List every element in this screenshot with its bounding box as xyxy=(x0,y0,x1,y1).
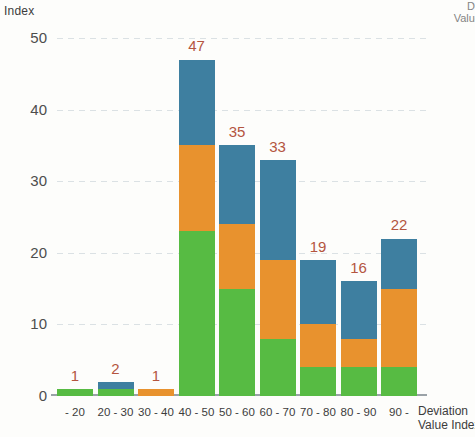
bar-total-label: 47 xyxy=(188,37,205,54)
bar-segment-orange[interactable] xyxy=(179,145,215,231)
y-axis-tick-label: 10 xyxy=(30,316,47,333)
y-axis-tick-label: 20 xyxy=(30,244,47,261)
x-axis-tick-label: 80 - 90 xyxy=(341,406,377,418)
bar-total-label: 19 xyxy=(310,238,327,255)
x-axis-tick-label: 40 - 50 xyxy=(179,406,215,418)
chart-page: Index De Value Deviation Value Index 504… xyxy=(0,0,475,437)
bar-segment-blue[interactable] xyxy=(300,260,336,324)
plot-area: 50403020100 1- 20220 - 30130 - 404740 - … xyxy=(57,38,417,396)
top-right-label-line2: Value xyxy=(454,12,475,24)
x-axis-tick-label: - 20 xyxy=(65,406,85,418)
bar-total-label: 1 xyxy=(71,367,79,384)
bar-group[interactable]: 130 - 40 xyxy=(138,38,174,396)
bar-segment-orange[interactable] xyxy=(341,339,377,368)
x-axis-tick-label: 20 - 30 xyxy=(98,406,134,418)
bar-total-label: 1 xyxy=(152,367,160,384)
bar-segment-orange[interactable] xyxy=(260,260,296,339)
gridline: 0 xyxy=(57,396,429,397)
bar-group[interactable]: 3360 - 70 xyxy=(260,38,296,396)
bar-segment-green[interactable] xyxy=(179,231,215,396)
y-axis-tick-label: 30 xyxy=(30,172,47,189)
bar-group[interactable]: 2290 - xyxy=(381,38,417,396)
bar-segment-blue[interactable] xyxy=(98,382,134,389)
x-axis-title: Deviation Value Index xyxy=(418,404,475,432)
top-right-cropped-label: De Value xyxy=(454,0,475,24)
x-axis-tick-label: 60 - 70 xyxy=(260,406,296,418)
bar-group[interactable]: 4740 - 50 xyxy=(179,38,215,396)
x-axis-title-line1: Deviation xyxy=(418,404,475,418)
bar-segment-green[interactable] xyxy=(57,389,93,396)
bar-group[interactable]: 3550 - 60 xyxy=(219,38,255,396)
top-right-label-line1: De xyxy=(454,0,475,12)
bar-total-label: 33 xyxy=(269,138,286,155)
x-axis-tick-label: 70 - 80 xyxy=(300,406,336,418)
bar-segment-green[interactable] xyxy=(260,339,296,396)
bar-segment-blue[interactable] xyxy=(260,160,296,260)
bar-total-label: 35 xyxy=(229,123,246,140)
bar-group[interactable]: 220 - 30 xyxy=(98,38,134,396)
bar-segment-green[interactable] xyxy=(341,367,377,396)
x-axis-tick-label: 30 - 40 xyxy=(138,406,174,418)
bar-group[interactable]: 1- 20 xyxy=(57,38,93,396)
bar-segment-blue[interactable] xyxy=(381,239,417,289)
bar-segment-orange[interactable] xyxy=(138,389,174,396)
y-axis-tick-label: 40 xyxy=(30,101,47,118)
bar-segment-orange[interactable] xyxy=(300,324,336,367)
x-axis-tick-label: 50 - 60 xyxy=(219,406,255,418)
bar-segment-blue[interactable] xyxy=(219,145,255,224)
bar-segment-green[interactable] xyxy=(381,367,417,396)
x-axis-tick-label: 90 - xyxy=(389,406,409,418)
bar-segment-orange[interactable] xyxy=(219,224,255,288)
y-axis-title: Index xyxy=(4,4,34,18)
bar-total-label: 16 xyxy=(350,259,367,276)
bar-group[interactable]: 1680 - 90 xyxy=(341,38,377,396)
bar-total-label: 2 xyxy=(111,360,119,377)
bar-segment-blue[interactable] xyxy=(341,281,377,338)
bar-segment-blue[interactable] xyxy=(179,60,215,146)
y-axis-tick-label: 50 xyxy=(30,29,47,46)
y-axis-tick-label: 0 xyxy=(39,387,47,404)
bar-series: 1- 20220 - 30130 - 404740 - 503550 - 603… xyxy=(57,38,417,396)
bar-segment-orange[interactable] xyxy=(381,289,417,368)
bar-group[interactable]: 1970 - 80 xyxy=(300,38,336,396)
bar-segment-green[interactable] xyxy=(300,367,336,396)
bar-total-label: 22 xyxy=(391,216,408,233)
bar-segment-green[interactable] xyxy=(98,389,134,396)
bar-segment-green[interactable] xyxy=(219,289,255,396)
x-axis-title-line2: Value Index xyxy=(418,418,475,432)
